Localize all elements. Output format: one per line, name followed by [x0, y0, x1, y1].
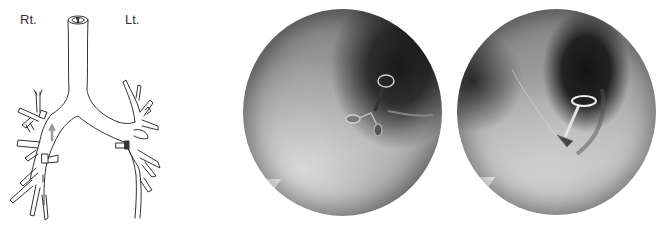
endoscopic-image-1	[243, 9, 442, 216]
endoscopic-image-2	[457, 9, 656, 215]
valve-right-lower-icon	[42, 154, 48, 163]
bronchial-tree-drawing	[0, 0, 200, 231]
bronchial-tree-diagram: Rt. Lt.	[0, 0, 200, 231]
